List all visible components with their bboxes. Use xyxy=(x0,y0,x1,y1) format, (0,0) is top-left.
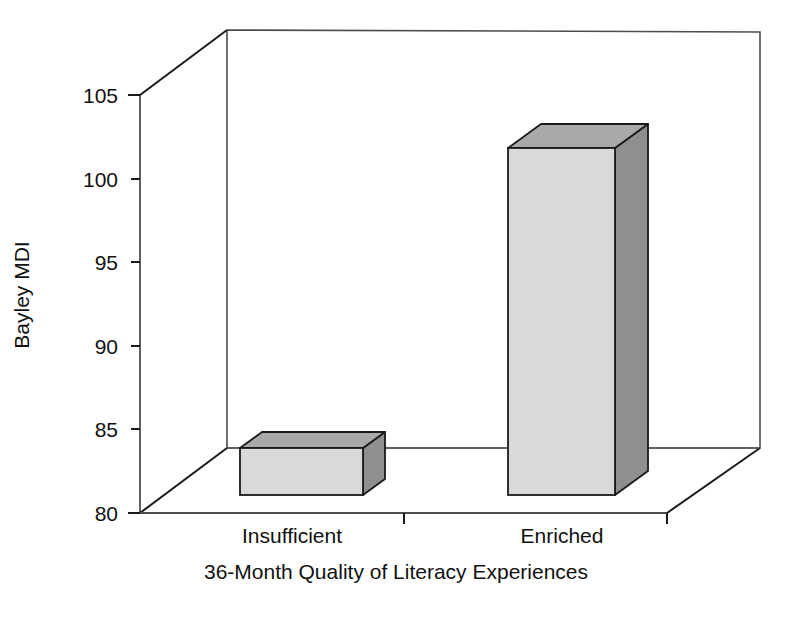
x-axis-ticks xyxy=(404,513,667,524)
bar-insufficient[interactable] xyxy=(240,432,385,495)
bar-enriched-side xyxy=(615,124,648,495)
bar-insufficient-top xyxy=(240,432,385,448)
y-tick-label-90: 90 xyxy=(40,336,118,357)
y-tick-label-85: 85 xyxy=(40,419,118,440)
y-axis-title: Bayley MDI xyxy=(10,170,34,420)
y-tick-label-80: 80 xyxy=(40,503,118,524)
bar-insufficient-front xyxy=(240,448,363,495)
y-tick-label-100: 100 xyxy=(40,169,118,190)
y-tick-label-95: 95 xyxy=(40,252,118,273)
x-axis-title: 36-Month Quality of Literacy Experiences xyxy=(0,560,792,584)
bar-enriched[interactable] xyxy=(508,124,648,495)
back-wall-outline xyxy=(227,30,760,448)
x-category-label-enriched: Enriched xyxy=(452,525,672,546)
bayley-mdi-bar-chart: 105 100 95 90 85 80 Insufficient Enriche… xyxy=(0,0,792,624)
axis-frame xyxy=(140,30,760,513)
depth-edge-bottom-right xyxy=(667,448,760,513)
y-axis-ticks xyxy=(128,95,140,513)
x-category-label-insufficient: Insufficient xyxy=(182,525,402,546)
depth-edge-bottom-left xyxy=(140,448,227,513)
y-tick-label-105: 105 xyxy=(40,85,118,106)
depth-edge-top-left xyxy=(140,30,227,95)
bar-enriched-front xyxy=(508,148,615,495)
